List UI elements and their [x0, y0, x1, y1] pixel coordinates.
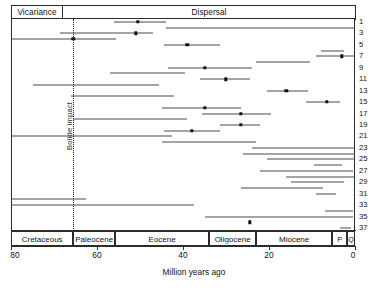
- x-tick-label: 80: [10, 251, 19, 260]
- confidence-interval-bar: [60, 33, 152, 34]
- confidence-interval-bar: [306, 102, 340, 103]
- confidence-interval-bar: [11, 199, 86, 200]
- point-estimate-marker: [325, 100, 328, 103]
- confidence-interval-bar: [252, 147, 355, 148]
- row-label: 29: [359, 178, 367, 186]
- confidence-interval-bar: [11, 136, 172, 137]
- confidence-interval-bar: [321, 50, 345, 51]
- confidence-interval-bar: [114, 21, 166, 22]
- x-axis-title: Million years ago: [0, 267, 388, 277]
- epoch-cell: Eocene: [115, 231, 209, 246]
- confidence-interval-bar: [11, 39, 116, 40]
- point-estimate-marker: [239, 112, 242, 115]
- row-label: 7: [359, 52, 363, 60]
- row-label: 37: [359, 224, 367, 232]
- confidence-interval-bar: [340, 228, 351, 229]
- confidence-interval-bar: [314, 165, 342, 166]
- row-label: 5: [359, 41, 363, 49]
- vicariance-label: Vicariance: [12, 8, 62, 17]
- epoch-cell: Cretaceous: [11, 231, 73, 246]
- point-estimate-marker: [190, 129, 193, 132]
- confidence-interval-bar: [316, 193, 335, 194]
- row-label: 21: [359, 132, 367, 140]
- point-estimate-marker: [134, 32, 137, 35]
- confidence-interval-bar: [11, 205, 194, 206]
- epoch-label: Cretaceous: [12, 234, 72, 243]
- epoch-cell: P: [332, 231, 347, 246]
- row-label: 3: [359, 29, 363, 37]
- epoch-label: Miocene: [257, 234, 331, 243]
- row-label: 25: [359, 155, 367, 163]
- epoch-label: Oligocene: [210, 234, 255, 243]
- epoch-strip: CretaceousPaleoceneEoceneOligoceneMiocen…: [11, 231, 356, 246]
- row-label: 13: [359, 87, 367, 95]
- confidence-interval-bar: [267, 159, 355, 160]
- point-estimate-marker: [224, 77, 227, 80]
- confidence-interval-bar: [166, 27, 355, 28]
- confidence-interval-bar: [205, 216, 353, 217]
- confidence-interval-bar: [162, 107, 242, 108]
- confidence-interval-bar: [71, 96, 174, 97]
- figure-canvas: Vicariance Dispersal Bolide impact 13579…: [0, 0, 388, 290]
- row-label: 27: [359, 167, 367, 175]
- point-estimate-marker: [203, 66, 206, 69]
- epoch-cell: Oligocene: [209, 231, 256, 246]
- point-estimate-marker: [239, 123, 242, 126]
- epoch-label: Paleocene: [74, 234, 114, 243]
- point-estimate-marker: [340, 55, 343, 58]
- row-label: 35: [359, 213, 367, 221]
- row-label: 33: [359, 201, 367, 209]
- header-band-dispersal: Dispersal: [62, 5, 356, 19]
- row-label: 9: [359, 64, 363, 72]
- header-band-vicariance: Vicariance: [11, 5, 63, 19]
- dispersal-label: Dispersal: [63, 8, 355, 17]
- epoch-cell: Paleocene: [73, 231, 115, 246]
- x-tick-label: 0: [351, 251, 356, 260]
- epoch-label: P: [333, 234, 346, 243]
- confidence-interval-bar: [33, 84, 160, 85]
- confidence-interval-bar: [202, 113, 271, 114]
- epoch-cell: Q: [347, 231, 355, 246]
- confidence-interval-bar: [316, 56, 355, 57]
- point-estimate-marker: [203, 106, 206, 109]
- confidence-interval-bar: [243, 153, 355, 154]
- row-label: 31: [359, 190, 367, 198]
- row-label: 17: [359, 110, 367, 118]
- point-estimate-marker: [136, 20, 139, 23]
- row-label: 15: [359, 98, 367, 106]
- confidence-interval-bar: [286, 176, 355, 177]
- row-label: 19: [359, 121, 367, 129]
- point-estimate-marker: [248, 221, 251, 224]
- confidence-interval-bar: [110, 73, 185, 74]
- confidence-interval-bar: [325, 210, 353, 211]
- confidence-interval-bar: [168, 67, 252, 68]
- confidence-interval-bar: [164, 44, 220, 45]
- point-estimate-marker: [284, 89, 287, 92]
- epoch-cell: Miocene: [256, 231, 332, 246]
- point-estimate-marker: [186, 43, 189, 46]
- epoch-label: Eocene: [116, 234, 208, 243]
- epoch-label: Q: [348, 234, 354, 243]
- row-label: 1: [359, 18, 363, 26]
- row-label: 23: [359, 144, 367, 152]
- x-tick-label: 40: [178, 251, 187, 260]
- point-estimate-marker: [72, 37, 75, 40]
- confidence-interval-bar: [291, 182, 345, 183]
- x-tick-label: 60: [92, 251, 101, 260]
- row-label: 11: [359, 75, 367, 83]
- confidence-interval-bar: [256, 61, 310, 62]
- confidence-interval-bar: [73, 119, 187, 120]
- confidence-interval-bar: [162, 142, 257, 143]
- confidence-interval-bar: [260, 170, 352, 171]
- confidence-interval-bar: [241, 188, 323, 189]
- x-tick-label: 20: [264, 251, 273, 260]
